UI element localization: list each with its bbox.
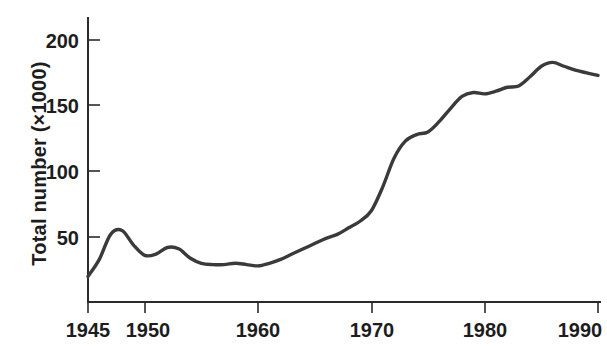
x-tick-labels: 1945 1950 1960 1970 1980 1990	[66, 319, 603, 341]
x-tick-label-1960: 1960	[236, 319, 281, 341]
y-axis-ticks	[88, 40, 100, 237]
x-axis-ticks	[88, 302, 598, 313]
y-tick-label-200: 200	[46, 30, 79, 52]
y-tick-label-100: 100	[46, 161, 79, 183]
y-tick-labels: 200 150 100 50	[46, 30, 79, 249]
data-series-line	[88, 62, 598, 276]
chart-figure: 200 150 100 50 1945 1950 1960 1970 1980 …	[0, 0, 607, 346]
y-axis-label: Total number (×1000)	[28, 29, 51, 299]
x-tick-label-1980: 1980	[463, 319, 508, 341]
line-chart-canvas: 200 150 100 50 1945 1950 1960 1970 1980 …	[0, 0, 607, 346]
x-tick-label-1950: 1950	[126, 319, 171, 341]
x-tick-label-1945: 1945	[66, 319, 111, 341]
x-tick-label-1990: 1990	[558, 319, 603, 341]
y-tick-label-50: 50	[57, 227, 79, 249]
chart-axes	[88, 18, 600, 302]
y-tick-label-150: 150	[46, 95, 79, 117]
x-tick-label-1970: 1970	[350, 319, 395, 341]
